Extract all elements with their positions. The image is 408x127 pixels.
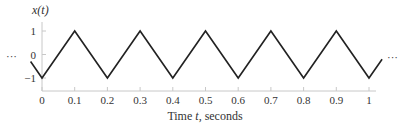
y-tick-label: −1 <box>24 72 36 84</box>
x-tick-label: 0 <box>39 94 45 106</box>
x-tick-label: 0.9 <box>329 94 343 106</box>
right-ellipsis: ··· <box>387 51 398 63</box>
y-axis-ticks: 10−1 <box>24 25 46 84</box>
y-tick-label: 1 <box>31 25 37 37</box>
left-ellipsis: ··· <box>6 50 17 62</box>
x-tick-label: 0.7 <box>264 94 278 106</box>
x-tick-label: 0.3 <box>133 94 147 106</box>
x-tick-label: 0.4 <box>166 94 180 106</box>
x-tick-label: 0.6 <box>231 94 245 106</box>
x-tick-label: 1 <box>366 94 372 106</box>
x-axis-ticks: 00.10.20.30.40.50.60.70.80.91 <box>39 87 372 106</box>
x-tick-label: 0.1 <box>68 94 82 106</box>
triangle-wave-line <box>31 31 383 78</box>
y-axis-label: x(t) <box>31 3 49 17</box>
x-axis-label: Time t, seconds <box>167 109 243 123</box>
x-tick-label: 0.2 <box>101 94 115 106</box>
triangle-wave-chart: 10−1 00.10.20.30.40.50.60.70.80.91 x(t) … <box>0 0 408 127</box>
x-tick-label: 0.5 <box>199 94 213 106</box>
y-tick-label: 0 <box>31 49 37 61</box>
x-tick-label: 0.8 <box>297 94 311 106</box>
